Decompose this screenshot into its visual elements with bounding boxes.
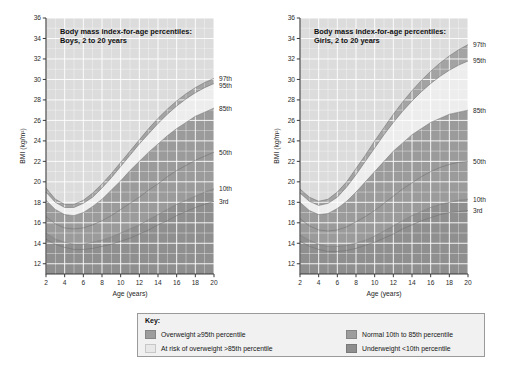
bmi-growth-chart-figure: 1214161820222426283032343624681012141618… [0, 0, 512, 371]
x-axis: 2468101214161820 [44, 274, 218, 286]
y-axis-title: BMI (kg/m²) [273, 128, 281, 164]
y-tick-label: 34 [288, 35, 296, 42]
percentile-label-85th: 85th [473, 107, 486, 114]
x-tick-label: 6 [335, 279, 339, 286]
y-tick-label: 26 [34, 117, 42, 124]
key-label-at-risk: At risk of overweight >85th percentile [161, 344, 273, 353]
key-item: Normal 10th to 85th percentile [346, 327, 482, 341]
key-item: At risk of overweight >85th percentile [145, 341, 341, 355]
key-item: Overweight ≥95th percentile [145, 327, 341, 341]
y-tick-label: 14 [288, 240, 296, 247]
x-axis-title: Age (years) [112, 290, 147, 298]
y-tick-label: 16 [34, 219, 42, 226]
percentile-label-3rd: 3rd [219, 198, 229, 205]
x-tick-label: 14 [154, 279, 162, 286]
y-tick-label: 22 [34, 158, 42, 165]
y-tick-label: 30 [34, 76, 42, 83]
x-tick-label: 10 [117, 279, 125, 286]
y-tick-label: 12 [34, 260, 42, 267]
chart-panel-boys: 1214161820222426283032343624681012141618… [2, 6, 258, 306]
x-tick-label: 18 [192, 279, 200, 286]
chart-girls-svg: 1214161820222426283032343624681012141618… [258, 6, 512, 306]
y-tick-label: 16 [288, 219, 296, 226]
y-tick-label: 36 [34, 14, 42, 21]
key-label-underweight: Underweight <10th percentile [362, 344, 451, 353]
y-tick-label: 30 [288, 76, 296, 83]
y-axis-title: BMI (kg/m²) [19, 128, 27, 164]
x-tick-label: 12 [390, 279, 398, 286]
x-tick-label: 14 [408, 279, 416, 286]
chart-title-line2: Girls, 2 to 20 years [314, 36, 380, 45]
percentile-label-10th: 10th [473, 196, 486, 203]
x-tick-label: 6 [81, 279, 85, 286]
key-swatch-overweight [145, 330, 156, 339]
x-axis-title: Age (years) [366, 290, 401, 298]
x-tick-label: 10 [371, 279, 379, 286]
chart-boys-canvas: 1214161820222426283032343624681012141618… [2, 6, 258, 306]
y-tick-label: 20 [34, 178, 42, 185]
percentile-label-85th: 85th [219, 105, 232, 112]
chart-title-line1: Body mass index-for-age percentiles: [314, 27, 446, 36]
y-tick-label: 20 [288, 178, 296, 185]
percentile-labels: 97th95th85th50th10th3rd [219, 75, 232, 205]
x-axis: 2468101214161820 [298, 274, 472, 286]
key-swatch-underweight [346, 344, 357, 353]
key-label-normal: Normal 10th to 85th percentile [362, 330, 453, 339]
percentile-label-97th: 97th [219, 75, 232, 82]
x-tick-label: 18 [446, 279, 454, 286]
chart-panel-girls: 1214161820222426283032343624681012141618… [258, 6, 512, 306]
x-tick-label: 4 [317, 279, 321, 286]
percentile-label-95th: 95th [473, 57, 486, 64]
x-tick-label: 8 [100, 279, 104, 286]
y-tick-label: 18 [34, 199, 42, 206]
percentile-label-50th: 50th [473, 158, 486, 165]
y-axis: 12141618202224262830323436 [288, 14, 300, 267]
x-tick-label: 20 [210, 279, 218, 286]
y-tick-label: 28 [34, 96, 42, 103]
key-column-right: Normal 10th to 85th percentile Underweig… [346, 327, 482, 355]
y-tick-label: 24 [34, 137, 42, 144]
chart-girls-canvas: 1214161820222426283032343624681012141618… [258, 6, 512, 306]
key-legend: Key: Overweight ≥95th percentile At risk… [137, 313, 485, 357]
y-tick-label: 36 [288, 14, 296, 21]
key-swatch-normal [346, 330, 357, 339]
y-tick-label: 32 [288, 55, 296, 62]
y-tick-label: 28 [288, 96, 296, 103]
percentile-label-3rd: 3rd [473, 207, 483, 214]
y-tick-label: 22 [288, 158, 296, 165]
percentile-label-10th: 10th [219, 185, 232, 192]
x-tick-label: 16 [427, 279, 435, 286]
key-title: Key: [145, 317, 160, 324]
y-tick-label: 14 [34, 240, 42, 247]
y-tick-label: 18 [288, 199, 296, 206]
y-tick-label: 26 [288, 117, 296, 124]
x-tick-label: 16 [173, 279, 181, 286]
key-label-overweight: Overweight ≥95th percentile [161, 330, 246, 339]
percentile-label-50th: 50th [219, 149, 232, 156]
percentile-label-95th: 95th [219, 82, 232, 89]
x-tick-label: 12 [136, 279, 144, 286]
percentile-label-97th: 97th [473, 41, 486, 48]
x-tick-label: 20 [464, 279, 472, 286]
y-tick-label: 34 [34, 35, 42, 42]
y-tick-label: 32 [34, 55, 42, 62]
key-item: Underweight <10th percentile [346, 341, 482, 355]
x-tick-label: 2 [44, 279, 48, 286]
x-tick-label: 4 [63, 279, 67, 286]
chart-title-line1: Body mass index-for-age percentiles: [60, 27, 192, 36]
percentile-labels: 97th95th85th50th10th3rd [473, 41, 486, 214]
key-column-left: Overweight ≥95th percentile At risk of o… [145, 327, 341, 355]
y-tick-label: 12 [288, 260, 296, 267]
chart-boys-svg: 1214161820222426283032343624681012141618… [2, 6, 258, 306]
y-tick-label: 24 [288, 137, 296, 144]
chart-title-line2: Boys, 2 to 20 years [60, 36, 127, 45]
x-tick-label: 8 [354, 279, 358, 286]
key-swatch-at-risk [145, 344, 156, 353]
x-tick-label: 2 [298, 279, 302, 286]
y-axis: 12141618202224262830323436 [34, 14, 46, 267]
